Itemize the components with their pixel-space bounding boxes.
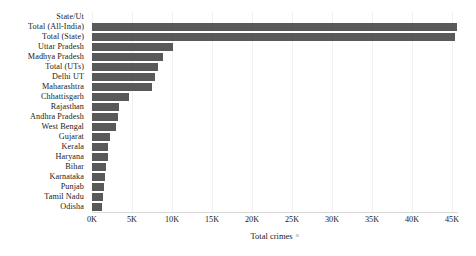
bar <box>92 83 152 91</box>
bar <box>92 33 455 41</box>
x-axis-tick-label: 10K <box>165 214 179 226</box>
bar-row <box>92 202 458 212</box>
y-axis-labels: State/Ut Total (All-India)Total (State)U… <box>0 12 88 212</box>
y-axis-tick-label: Karnataka <box>0 172 88 182</box>
x-axis-tick-label: 35K <box>365 214 379 226</box>
bar <box>92 53 163 61</box>
plot-area <box>92 12 458 212</box>
bar <box>92 123 116 131</box>
x-axis-tick-label: 15K <box>205 214 219 226</box>
bar-row <box>92 72 458 82</box>
x-axis-tick-label: 0K <box>87 214 97 226</box>
bar-row <box>92 142 458 152</box>
y-axis-tick-label: Odisha <box>0 202 88 212</box>
bar-row <box>92 112 458 122</box>
x-axis-ticks: 0K5K10K15K20K25K30K35K40K45K <box>92 214 458 228</box>
bar <box>92 153 108 161</box>
y-axis-tick-label: Kerala <box>0 142 88 152</box>
x-axis-line <box>92 212 458 213</box>
y-axis-tick-label: Chhattisgarh <box>0 92 88 102</box>
bar-row <box>92 102 458 112</box>
bar-row <box>92 22 458 32</box>
y-axis-tick-label: Uttar Pradesh <box>0 42 88 52</box>
bar-row <box>92 192 458 202</box>
bar-row <box>92 122 458 132</box>
bar-series <box>92 22 458 212</box>
bar <box>92 143 108 151</box>
x-axis-tick-label: 20K <box>245 214 259 226</box>
bar <box>92 203 102 211</box>
bar-row <box>92 82 458 92</box>
bar <box>92 23 457 31</box>
y-axis-tick-label: Punjab <box>0 182 88 192</box>
bar <box>92 93 129 101</box>
y-axis-tick-label: West Bengal <box>0 122 88 132</box>
bar <box>92 193 103 201</box>
bar-row <box>92 52 458 62</box>
y-axis-tick-label: Tamil Nadu <box>0 192 88 202</box>
y-axis-tick-label: Madhya Pradesh <box>0 52 88 62</box>
y-axis-tick-label: Maharashtra <box>0 82 88 92</box>
bar-chart: State/Ut Total (All-India)Total (State)U… <box>0 0 476 256</box>
bar-row <box>92 62 458 72</box>
y-axis-tick-label: Haryana <box>0 152 88 162</box>
x-axis-tick-label: 5K <box>127 214 137 226</box>
x-axis-tick-label: 30K <box>325 214 339 226</box>
bar <box>92 43 173 51</box>
bar-row <box>92 132 458 142</box>
bar-row <box>92 172 458 182</box>
y-axis-tick-label: Andhra Pradesh <box>0 112 88 122</box>
y-axis-tick-label: Total (All-India) <box>0 22 88 32</box>
bar <box>92 103 119 111</box>
y-axis-tick-label: Bihar <box>0 162 88 172</box>
sort-indicator-icon: ≡ <box>296 232 300 240</box>
y-axis-tick-label: Total (UTs) <box>0 62 88 72</box>
bar <box>92 133 110 141</box>
bar <box>92 183 104 191</box>
bar-row <box>92 92 458 102</box>
bar-row <box>92 162 458 172</box>
bar-row <box>92 32 458 42</box>
bar <box>92 63 158 71</box>
bar <box>92 73 155 81</box>
bar <box>92 163 106 171</box>
x-axis-title-text: Total crimes <box>250 231 292 241</box>
y-axis-tick-label: Delhi UT <box>0 72 88 82</box>
x-axis-tick-label: 40K <box>405 214 419 226</box>
bar-row <box>92 42 458 52</box>
y-axis-tick-label: Rajasthan <box>0 102 88 112</box>
x-axis-tick-label: 25K <box>285 214 299 226</box>
x-axis-tick-label: 45K <box>445 214 459 226</box>
bar <box>92 113 118 121</box>
bar <box>92 173 105 181</box>
y-axis-tick-label: Gujarat <box>0 132 88 142</box>
y-axis-tick-label: Total (State) <box>0 32 88 42</box>
bar-row <box>92 182 458 192</box>
bar-row <box>92 152 458 162</box>
x-axis-title: Total crimes≡ <box>92 231 458 241</box>
y-axis-title: State/Ut <box>0 12 88 22</box>
